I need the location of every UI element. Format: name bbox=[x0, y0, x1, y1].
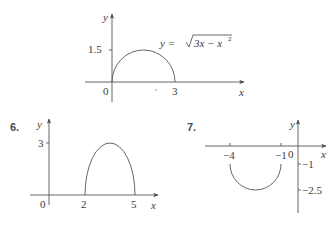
x-tick-label-0: 0 bbox=[40, 198, 46, 210]
equation-label: y = 3x − x 2 bbox=[159, 35, 232, 49]
y-axis-label: y bbox=[102, 11, 108, 23]
half-ellipse-curve bbox=[85, 143, 135, 195]
figure-canvas: y 1.5 0 3 x y = 3x − x 2 6. y 3 0 2 5 x … bbox=[0, 0, 336, 225]
y-tick-label-minus1: −1 bbox=[302, 158, 314, 170]
x-tick-label-0: 0 bbox=[103, 85, 109, 97]
svg-text:2: 2 bbox=[228, 35, 232, 43]
x-axis-label: x bbox=[320, 148, 326, 160]
y-tick-label-minus2-5: −2.5 bbox=[302, 184, 322, 196]
graph-top: y 1.5 0 3 x y = 3x − x 2 bbox=[85, 11, 244, 102]
y-axis-label: y bbox=[36, 118, 42, 130]
svg-text:3x − x: 3x − x bbox=[193, 37, 222, 49]
x-tick-label-3: 3 bbox=[172, 85, 178, 97]
lower-semicircle-curve bbox=[230, 164, 281, 190]
y-axis-label: y bbox=[289, 118, 295, 130]
x-tick-label-2: 2 bbox=[81, 198, 87, 210]
semicircle-curve bbox=[112, 50, 175, 82]
x-tick-label-0: 0 bbox=[288, 148, 294, 160]
graph-6: 6. y 3 0 2 5 x bbox=[10, 118, 158, 211]
problem-number: 6. bbox=[10, 121, 19, 133]
svg-text:y =: y = bbox=[159, 37, 175, 49]
x-axis-label: x bbox=[150, 199, 156, 211]
problem-number: 7. bbox=[187, 121, 196, 133]
y-tick-label: 3 bbox=[38, 137, 44, 149]
x-axis-label: x bbox=[238, 86, 244, 98]
x-tick-label-minus1: −1 bbox=[275, 149, 287, 161]
x-tick-label-minus4: −4 bbox=[223, 149, 235, 161]
dot-mark bbox=[155, 89, 156, 90]
y-tick-label: 1.5 bbox=[88, 43, 102, 55]
x-tick-label-5: 5 bbox=[131, 198, 137, 210]
graph-7: 7. y x −4 −1 0 −1 −2.5 bbox=[187, 118, 326, 213]
